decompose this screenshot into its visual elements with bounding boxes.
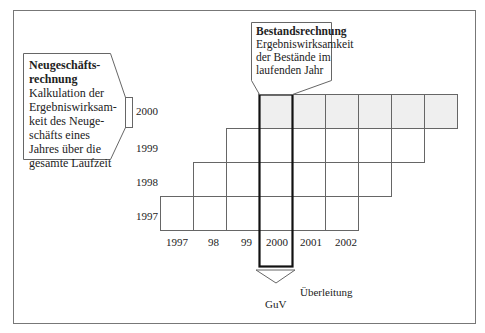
neugeschaeft-text: Neugeschäfts- rechnung Kalkulation der E… xyxy=(29,58,117,170)
row-label-1998: 1998 xyxy=(136,176,158,189)
col-label-1997: 1997 xyxy=(166,236,188,249)
neugeschaeft-body-6: gesamte Laufzeit xyxy=(29,156,117,170)
col-label-99: 99 xyxy=(241,236,252,249)
bestandsrechnung-body-2: der Bestände im xyxy=(256,51,354,64)
row-label-1997: 1997 xyxy=(136,210,158,223)
col-label-98: 98 xyxy=(208,236,219,249)
down-arrow-icon xyxy=(256,270,295,283)
bestandsrechnung-body-1: Ergebniswirksamkeit xyxy=(256,38,354,51)
col-label-2002: 2002 xyxy=(335,236,357,249)
neugeschaeft-body-3: keit des Neuge- xyxy=(29,114,117,128)
row-label-2000: 2000 xyxy=(136,105,158,118)
col-label-2001: 2001 xyxy=(300,236,322,249)
neugeschaeft-title-1: Neugeschäfts- xyxy=(29,58,117,72)
neugeschaeft-body-1: Kalkulation der xyxy=(29,86,117,100)
callout-bracket xyxy=(126,98,133,128)
bestandsrechnung-title: Bestandsrechnung xyxy=(256,25,354,38)
bestandsrechnung-text: Bestandsrechnung Ergebniswirksamkeit der… xyxy=(256,25,354,77)
neugeschaeft-body-2: Ergebniswirksam- xyxy=(29,100,117,114)
ueberleitung-label: Überleitung xyxy=(300,286,353,299)
col-label-2000: 2000 xyxy=(266,236,288,249)
bestandsrechnung-body-3: laufenden Jahr xyxy=(256,64,354,77)
guv-label: GuV xyxy=(265,298,286,311)
row-label-1999: 1999 xyxy=(136,142,158,155)
neugeschaeft-body-5: Jahres über die xyxy=(29,142,117,156)
neugeschaeft-title-2: rechnung xyxy=(29,72,117,86)
neugeschaeft-body-4: schäfts eines xyxy=(29,128,117,142)
